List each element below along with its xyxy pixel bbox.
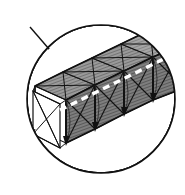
technical-drawing-canvas	[0, 0, 185, 195]
figure-detail-12: 12	[0, 0, 185, 195]
